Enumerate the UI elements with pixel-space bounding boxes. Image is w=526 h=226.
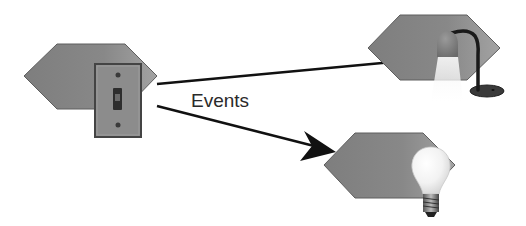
light-bulb-icon [412, 147, 450, 217]
events-label: Events [191, 90, 249, 111]
event-arrow-to-bulb [157, 106, 336, 161]
event-diagram: Events [0, 0, 526, 226]
bulb-node [324, 133, 455, 217]
lamp-node-hexagon [368, 15, 500, 80]
lamp-node [368, 15, 504, 101]
switch-node [24, 44, 157, 137]
light-switch-icon [95, 64, 141, 137]
